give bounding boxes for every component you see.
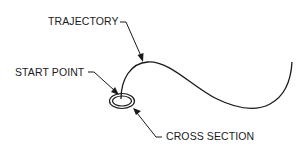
start-point-leader-arrow [88,72,119,95]
trajectory-curve [121,62,292,108]
trajectory-leader-arrow [120,22,144,62]
cross-section-leader-arrow [133,108,162,137]
arrowhead-icon [138,53,144,62]
sweep-diagram: TRAJECTORY START POINT CROSS SECTION [0,0,308,151]
trajectory-label: TRAJECTORY [48,15,119,27]
start-point-label: START POINT [15,66,85,78]
cross-section-ellipse [110,94,135,109]
cross-section-label: CROSS SECTION [166,130,254,142]
arrowhead-icon [133,108,141,115]
